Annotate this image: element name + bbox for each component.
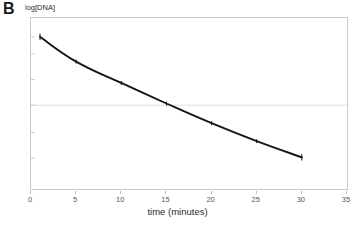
- x-tick-label: 20: [206, 195, 214, 204]
- x-tick-mark: [346, 191, 347, 194]
- x-tick-mark: [75, 191, 76, 194]
- data-point-markers: [40, 34, 302, 161]
- y-axis-label: log[DNA]: [25, 3, 55, 12]
- x-axis-label: time (minutes): [0, 206, 355, 217]
- x-tick-label: 0: [28, 195, 32, 204]
- x-tick-label: 35: [342, 195, 350, 204]
- data-series-group: [40, 37, 302, 158]
- x-tick-mark: [165, 191, 166, 194]
- x-tick-mark: [120, 191, 121, 194]
- x-tick-mark: [211, 191, 212, 194]
- chart-canvas: [31, 18, 347, 189]
- x-tick-mark: [256, 191, 257, 194]
- y-axis-ticks: [31, 37, 35, 158]
- x-tick-label: 15: [161, 195, 169, 204]
- x-tick-label: 5: [73, 195, 77, 204]
- x-tick-mark: [30, 191, 31, 194]
- x-tick-mark: [301, 191, 302, 194]
- x-tick-label: 25: [252, 195, 260, 204]
- plot-area: [30, 17, 348, 190]
- data-line: [40, 37, 302, 158]
- figure-panel-b: B log[DNA] 05101520253035 time (minutes): [0, 0, 355, 226]
- x-tick-label: 30: [297, 195, 305, 204]
- x-axis-ticks: 05101520253035: [30, 191, 348, 205]
- x-tick-label: 10: [116, 195, 124, 204]
- panel-label: B: [3, 1, 15, 17]
